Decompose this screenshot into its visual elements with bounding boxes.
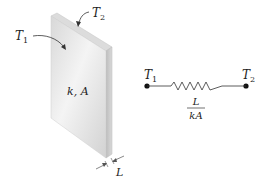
resistance-fraction: L kA bbox=[187, 96, 205, 121]
slab-t1-label: T 1 bbox=[15, 29, 28, 45]
t2-arrow-icon bbox=[76, 12, 89, 27]
thickness-label: L bbox=[115, 166, 123, 179]
slab-t2-label: T 2 bbox=[92, 6, 105, 22]
slab-property-label: k, A bbox=[67, 85, 89, 98]
thermal-circuit bbox=[144, 82, 248, 90]
svg-text:2: 2 bbox=[250, 75, 255, 84]
resistor-icon bbox=[147, 82, 246, 90]
diagram-canvas: k, A T 1 T 2 L T 1 T 2 L bbox=[0, 0, 268, 185]
svg-text:1: 1 bbox=[152, 75, 157, 84]
circuit-t1-label: T 1 bbox=[144, 68, 157, 84]
slab-side-face bbox=[106, 47, 112, 158]
svg-text:L: L bbox=[192, 96, 200, 107]
circuit-t2-label: T 2 bbox=[242, 68, 255, 84]
svg-text:kA: kA bbox=[189, 110, 202, 121]
svg-text:1: 1 bbox=[23, 36, 28, 45]
svg-text:2: 2 bbox=[100, 13, 105, 22]
